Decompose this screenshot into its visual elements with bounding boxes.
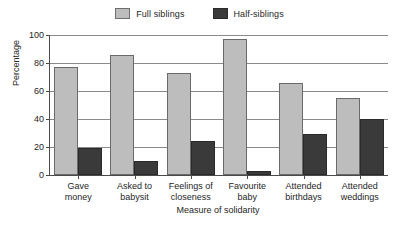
bar-group xyxy=(219,35,275,175)
y-tick-label-80: 80 xyxy=(34,58,44,68)
y-tick-mark-0 xyxy=(46,175,50,176)
bar-group xyxy=(332,35,388,175)
bar xyxy=(134,161,158,175)
plot-area: 020406080100 GavemoneyAsked tobabysitFee… xyxy=(49,35,388,176)
x-tick-mark xyxy=(191,175,192,179)
bar xyxy=(336,98,360,175)
y-tick-label-60: 60 xyxy=(34,86,44,96)
x-axis-title: Measure of solidarity xyxy=(49,205,387,215)
bar xyxy=(223,39,247,175)
x-tick-label: Attendedweddings xyxy=(325,181,395,203)
bar xyxy=(279,83,303,175)
y-tick-label-0: 0 xyxy=(39,170,44,180)
bar xyxy=(247,171,271,175)
bar-group xyxy=(50,35,106,175)
bar xyxy=(78,148,102,175)
x-tick-mark xyxy=(360,175,361,179)
x-tick-mark xyxy=(247,175,248,179)
y-axis-title: Percentage xyxy=(11,15,21,111)
y-tick-label-20: 20 xyxy=(34,142,44,152)
y-tick-label-40: 40 xyxy=(34,114,44,124)
legend-label-half-siblings: Half-siblings xyxy=(234,9,284,19)
bar xyxy=(191,141,215,175)
bar-group xyxy=(106,35,162,175)
legend-swatch-half-siblings xyxy=(213,8,228,19)
legend-item-full-siblings: Full siblings xyxy=(115,8,184,19)
chart-legend: Full siblings Half-siblings xyxy=(0,8,399,19)
bar-chart-figure: Full siblings Half-siblings Percentage 0… xyxy=(0,0,399,232)
legend-swatch-full-siblings xyxy=(115,8,130,19)
x-tick-label-line: Attended xyxy=(325,181,395,192)
legend-label-full-siblings: Full siblings xyxy=(136,9,184,19)
y-tick-label-100: 100 xyxy=(29,30,44,40)
bar-group xyxy=(275,35,331,175)
x-tick-label-line: weddings xyxy=(325,192,395,203)
bar xyxy=(110,55,134,175)
legend-item-half-siblings: Half-siblings xyxy=(213,8,284,19)
bar-group xyxy=(163,35,219,175)
bar xyxy=(360,119,384,175)
bar xyxy=(167,73,191,175)
x-tick-mark xyxy=(304,175,305,179)
x-tick-mark xyxy=(135,175,136,179)
x-tick-mark xyxy=(78,175,79,179)
bar xyxy=(54,67,78,175)
bar-groups xyxy=(50,35,388,175)
bar xyxy=(303,134,327,175)
